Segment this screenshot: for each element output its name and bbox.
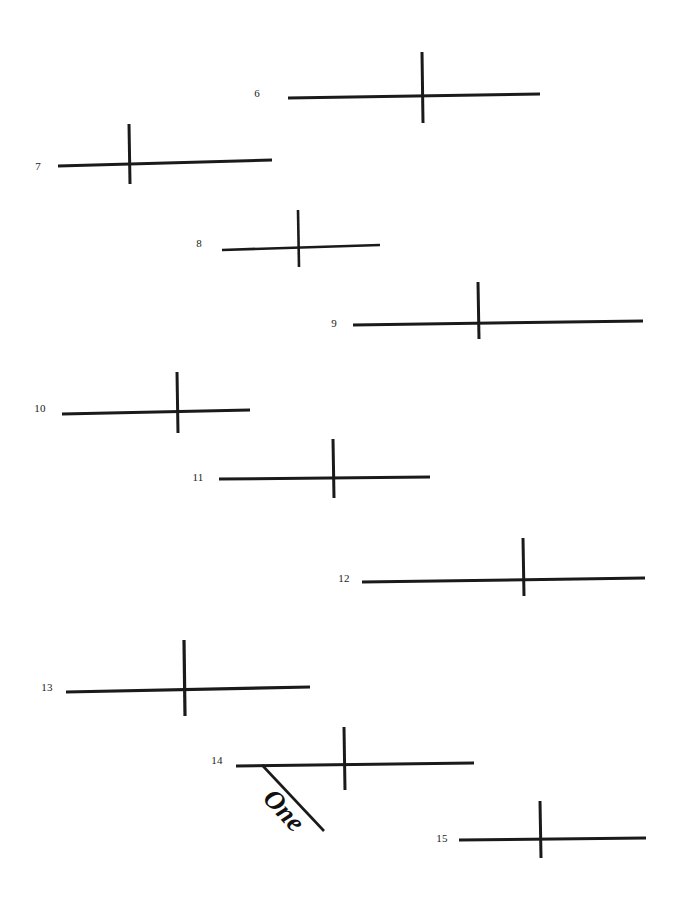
cross-figure-11 <box>219 439 430 498</box>
horizontal-stroke <box>222 245 380 250</box>
cross-figure-10 <box>62 372 250 433</box>
vertical-stroke <box>177 372 178 433</box>
horizontal-stroke <box>353 321 643 325</box>
horizontal-stroke <box>362 578 645 582</box>
figure-number-label-12: 12 <box>338 573 349 584</box>
vertical-stroke <box>540 801 541 858</box>
vertical-stroke <box>129 124 130 184</box>
worksheet-page: 6789101112131415 One <box>0 0 683 902</box>
cross-figure-9 <box>353 282 643 339</box>
figure-canvas <box>0 0 683 902</box>
horizontal-stroke <box>62 410 250 414</box>
cross-figure-14 <box>236 727 474 790</box>
cross-figure-12 <box>362 538 645 596</box>
vertical-stroke <box>298 210 299 267</box>
cross-figure-15 <box>459 801 646 858</box>
horizontal-stroke <box>58 160 272 166</box>
figure-number-label-10: 10 <box>34 403 45 414</box>
figure-number-label-9: 9 <box>331 318 337 329</box>
vertical-stroke <box>523 538 524 596</box>
vertical-stroke <box>478 282 479 339</box>
horizontal-stroke <box>66 687 310 692</box>
horizontal-stroke <box>236 763 474 766</box>
cross-figure-6 <box>288 52 540 123</box>
figure-number-label-13: 13 <box>41 682 52 693</box>
vertical-stroke <box>184 640 185 716</box>
cross-figure-13 <box>66 640 310 716</box>
horizontal-stroke <box>219 477 430 479</box>
vertical-stroke <box>344 727 345 790</box>
vertical-stroke <box>333 439 334 498</box>
figure-number-label-8: 8 <box>196 238 202 249</box>
horizontal-stroke <box>459 838 646 840</box>
figure-number-label-15: 15 <box>436 833 447 844</box>
cross-figure-7 <box>58 124 272 184</box>
horizontal-stroke <box>288 94 540 98</box>
figure-number-label-14: 14 <box>211 755 222 766</box>
cross-figure-8 <box>222 210 380 267</box>
figure-number-label-11: 11 <box>193 472 204 483</box>
figure-number-label-6: 6 <box>254 88 260 99</box>
figure-number-label-7: 7 <box>35 161 41 172</box>
vertical-stroke <box>422 52 423 123</box>
